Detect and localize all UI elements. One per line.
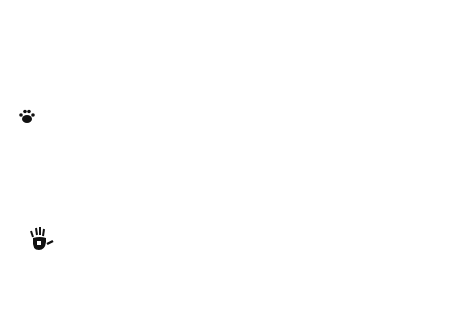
heart-rhythm-plot <box>0 0 464 310</box>
